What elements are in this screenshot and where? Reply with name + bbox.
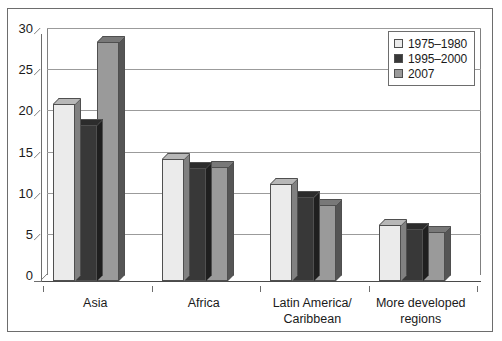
bar-front-face bbox=[379, 225, 401, 281]
legend-swatch-icon bbox=[394, 39, 403, 48]
bar bbox=[162, 159, 184, 281]
legend-item: 1995–2000 bbox=[394, 51, 467, 66]
bar-side-face bbox=[423, 223, 429, 281]
y-axis-tick-label: 25 bbox=[0, 62, 33, 77]
x-axis-category-label-line: More developed bbox=[357, 295, 486, 311]
y-axis-tick bbox=[34, 281, 41, 282]
bar-side-face bbox=[445, 226, 451, 281]
bar-side-face bbox=[292, 178, 298, 281]
x-axis-tick bbox=[260, 286, 261, 292]
bar-front-face bbox=[162, 159, 184, 281]
legend-label: 1995–2000 bbox=[408, 52, 467, 66]
bar-side-face bbox=[336, 199, 342, 281]
x-axis-tick bbox=[43, 286, 44, 292]
bar-side-face bbox=[75, 98, 81, 281]
legend-swatch-icon bbox=[394, 54, 403, 63]
y-axis-tick-label: 15 bbox=[0, 144, 33, 159]
legend-item: 2007 bbox=[394, 66, 467, 81]
bar-front-face bbox=[270, 184, 292, 281]
legend-swatch-icon bbox=[394, 69, 403, 78]
x-axis-category-label-line: regions bbox=[357, 311, 486, 327]
bar-side-face bbox=[401, 219, 407, 281]
bar-side-face bbox=[314, 191, 320, 281]
bar bbox=[270, 184, 292, 281]
legend-item: 1975–1980 bbox=[394, 36, 467, 51]
legend-label: 1975–1980 bbox=[408, 37, 467, 51]
x-axis-category-label: More developedregions bbox=[357, 295, 486, 327]
bar-side-face bbox=[119, 36, 125, 281]
bar bbox=[379, 225, 401, 281]
y-axis-tick-label: 20 bbox=[0, 103, 33, 118]
chart-figure: 051015202530 AsiaAfricaLatin America/Car… bbox=[0, 0, 502, 341]
y-axis-tick-label: 5 bbox=[0, 226, 33, 241]
gridline bbox=[47, 28, 481, 29]
legend-label: 2007 bbox=[408, 67, 434, 81]
x-axis-tick bbox=[152, 286, 153, 292]
axis-baseline bbox=[41, 281, 481, 282]
x-axis-tick bbox=[369, 286, 370, 292]
x-axis-tick bbox=[477, 286, 478, 292]
legend: 1975–1980 1995–2000 2007 bbox=[388, 31, 475, 86]
bar-front-face bbox=[53, 104, 75, 281]
y-axis-tick-label: 10 bbox=[0, 185, 33, 200]
bar bbox=[53, 104, 75, 281]
x-axis-labels: AsiaAfricaLatin America/CaribbeanMore de… bbox=[41, 286, 481, 336]
bar-side-face bbox=[206, 162, 212, 281]
bar-side-face bbox=[228, 161, 234, 281]
bar-side-face bbox=[184, 153, 190, 281]
y-axis-tick-label: 0 bbox=[0, 268, 33, 283]
bar-side-face bbox=[97, 119, 103, 281]
y-axis-tick-label: 30 bbox=[0, 21, 33, 36]
